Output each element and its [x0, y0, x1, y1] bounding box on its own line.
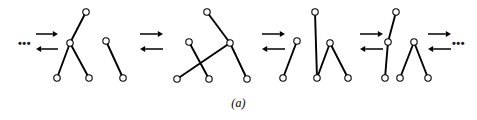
graph-edge [317, 43, 330, 78]
graph-edge [106, 41, 123, 78]
graph-node [411, 39, 417, 45]
graph-node [385, 39, 391, 45]
graph-node [120, 75, 126, 81]
state-3 [280, 9, 351, 81]
graph-edge [330, 43, 348, 78]
graph-node [103, 38, 109, 44]
graph-edge [177, 43, 230, 79]
arrow-head [53, 31, 58, 37]
graph-node [83, 9, 89, 15]
figure-container: ••• ••• (a) [0, 0, 477, 120]
graph-node [312, 9, 318, 15]
arrow-left [428, 46, 451, 52]
arrow-left [360, 46, 383, 52]
graph-node [294, 38, 300, 44]
graph-node [393, 9, 399, 15]
graph-node [327, 40, 333, 46]
graph-node [54, 75, 60, 81]
arrow-head [280, 31, 285, 37]
graph-node [345, 75, 351, 81]
graph-edge [189, 42, 209, 79]
graph-edge [400, 42, 414, 78]
arrow-head [158, 31, 163, 37]
arrow-head [360, 46, 365, 52]
arrow-left [36, 46, 58, 52]
state-4 [382, 9, 431, 81]
figure-caption: (a) [0, 96, 477, 111]
arrow-head [262, 46, 267, 52]
graph-node [186, 39, 192, 45]
ellipsis-left: ••• [18, 38, 31, 49]
graph-node [67, 40, 73, 46]
graph-node [425, 75, 431, 81]
arrow-right [36, 31, 58, 37]
graph-node [174, 76, 180, 82]
graph-edge [388, 12, 396, 42]
arrow-head [446, 31, 451, 37]
graph-edge [57, 43, 70, 78]
graph-edge [414, 42, 428, 78]
arrows-2 [262, 31, 285, 52]
graph-edge [207, 12, 230, 43]
arrow-head [36, 46, 41, 52]
graph-edge [70, 12, 86, 43]
state-1 [54, 9, 126, 81]
graph-edge [315, 12, 317, 78]
graph-node [227, 40, 233, 46]
arrow-head [140, 46, 145, 52]
arrow-left [262, 46, 285, 52]
arrow-right [360, 31, 383, 37]
state-2 [174, 9, 250, 82]
states-layer [54, 9, 431, 82]
graph-node [86, 75, 92, 81]
arrows-4 [428, 31, 451, 52]
graph-node [244, 76, 250, 82]
graph-node [206, 76, 212, 82]
arrows-0 [36, 31, 58, 52]
arrow-right [262, 31, 285, 37]
ellipsis-right: ••• [452, 38, 465, 49]
graph-edge [385, 42, 388, 78]
arrow-right [140, 31, 163, 37]
graph-node [382, 75, 388, 81]
arrows-1 [140, 31, 163, 52]
graph-node [204, 9, 210, 15]
graph-edge [230, 43, 247, 79]
graph-node [280, 75, 286, 81]
arrows-3 [360, 31, 383, 52]
arrow-head [428, 46, 433, 52]
arrow-head [378, 31, 383, 37]
graph-node [397, 75, 403, 81]
graph-edge [283, 41, 297, 78]
arrow-right [428, 31, 451, 37]
arrow-left [140, 46, 163, 52]
graph-edge [70, 43, 89, 78]
graph-node [314, 75, 320, 81]
